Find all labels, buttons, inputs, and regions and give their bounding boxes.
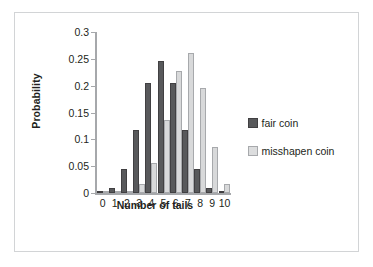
bar-misshapen-2	[127, 191, 133, 193]
y-axis-title: Probability	[30, 58, 42, 144]
bar-group	[109, 32, 121, 193]
bar-misshapen-1	[115, 191, 121, 193]
y-axis-tick-mark	[91, 32, 96, 33]
y-axis-tick-label: 0.25	[69, 53, 89, 65]
bar-group	[157, 32, 169, 193]
bar-group	[145, 32, 157, 193]
y-axis-tick-label: 0.1	[74, 133, 89, 145]
bar-group	[121, 32, 133, 193]
y-axis-tick-mark	[91, 193, 96, 194]
bar-misshapen-0	[103, 191, 109, 193]
legend-swatch-icon	[248, 118, 258, 128]
legend-item-fair[interactable]: fair coin	[248, 117, 368, 129]
bar-misshapen-10	[224, 184, 230, 193]
y-axis-tick-mark	[91, 166, 96, 167]
chart-frame: Probability 00.050.10.150.20.250.3 01234…	[14, 12, 359, 252]
bar-group	[206, 32, 218, 193]
legend-swatch-icon	[248, 146, 258, 156]
chart-figure: Probability 00.050.10.150.20.250.3 01234…	[0, 0, 373, 267]
y-axis-tick-mark	[91, 59, 96, 60]
bar-fair-2	[121, 169, 127, 193]
y-axis-tick-mark	[91, 139, 96, 140]
bar-misshapen-5	[164, 120, 170, 193]
bar-group	[97, 32, 109, 193]
x-axis-title: Number of tails	[75, 199, 235, 211]
bar-group	[194, 32, 206, 193]
bar-group	[182, 32, 194, 193]
y-axis-tick-label: 0.05	[69, 160, 89, 172]
bar-group	[170, 32, 182, 193]
y-axis-tick-label: 0.2	[74, 80, 89, 92]
bar-misshapen-7	[188, 53, 194, 193]
y-axis-tick-mark	[91, 113, 96, 114]
legend-label: misshapen coin	[262, 145, 335, 157]
bar-misshapen-8	[200, 88, 206, 193]
legend-item-misshapen[interactable]: misshapen coin	[248, 145, 368, 157]
bar-misshapen-3	[139, 184, 145, 193]
y-axis-tick-label: 0	[83, 187, 89, 199]
plot-area: 00.050.10.150.20.250.3 012345678910	[95, 32, 230, 193]
x-axis-line	[95, 193, 231, 195]
bar-group	[218, 32, 230, 193]
bar-misshapen-4	[151, 163, 157, 193]
bar-misshapen-6	[176, 71, 182, 193]
bar-series-container	[97, 32, 231, 193]
y-axis-tick-label: 0.15	[69, 107, 89, 119]
chart-legend: fair coinmisshapen coin	[248, 117, 368, 173]
legend-label: fair coin	[262, 117, 299, 129]
y-axis-tick-mark	[91, 86, 96, 87]
y-axis-tick-label: 0.3	[74, 26, 89, 38]
bar-misshapen-9	[212, 147, 218, 193]
bar-group	[133, 32, 145, 193]
